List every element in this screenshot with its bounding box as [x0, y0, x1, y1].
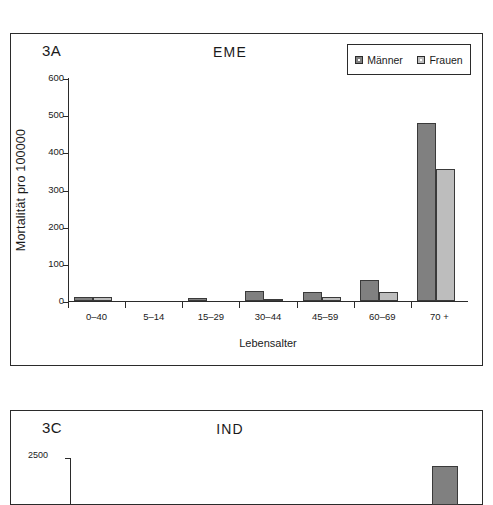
x-tick-mark — [125, 302, 126, 308]
y-tick-label: 500 — [48, 109, 64, 120]
panel-3c-tag: 3C — [42, 419, 62, 436]
legend-entry-maenner: Männer — [355, 54, 403, 66]
x-tick-label: 60–69 — [369, 311, 395, 322]
y-axis-line — [68, 78, 69, 302]
panel-3c-title: IND — [160, 421, 300, 437]
x-tick-mark — [182, 302, 183, 308]
x-tick-label: 0–40 — [86, 311, 107, 322]
x-tick-label: 30–44 — [255, 311, 281, 322]
legend-label-frauen: Frauen — [429, 54, 462, 66]
bar-45–59-frauen — [322, 297, 341, 301]
bar-15–29-maenner — [188, 298, 207, 301]
bar-60–69-frauen — [379, 292, 398, 301]
x-tick-label: 5–14 — [143, 311, 164, 322]
x-tick-label: 45–59 — [312, 311, 338, 322]
x-tick-mark — [411, 302, 412, 308]
x-tick-mark — [297, 302, 298, 308]
y-tick-label: 300 — [48, 184, 64, 195]
panel-3c-bar-maenner — [432, 466, 458, 505]
chart-legend: Männer Frauen — [347, 44, 471, 75]
bar-30–44-maenner — [245, 291, 264, 301]
y-axis-label: Mortalität pro 100000 — [14, 95, 28, 285]
x-tick-mark — [68, 302, 69, 308]
y-tick-label: 200 — [48, 221, 64, 232]
y-tick-label: 0 — [59, 295, 64, 306]
x-tick-mark — [239, 302, 240, 308]
panel-3a-title: EME — [160, 44, 300, 60]
bar-0–40-frauen — [93, 297, 112, 301]
x-tick-label: 15–29 — [198, 311, 224, 322]
bar-30–44-frauen — [264, 299, 283, 301]
panel-3c-y-axis-line — [70, 458, 71, 505]
panel-3c-ytick-label: 2500 — [28, 450, 48, 460]
bar-70-maenner — [417, 123, 436, 301]
x-axis-line — [68, 301, 468, 302]
x-axis-label: Lebensalter — [68, 337, 468, 349]
panel-3a-tag: 3A — [42, 42, 61, 59]
legend-entry-frauen: Frauen — [417, 54, 462, 66]
bar-70-frauen — [436, 169, 455, 301]
plot-area-3a: 0100200300400500600 0–405–1415–2930–4445… — [68, 78, 468, 302]
legend-label-maenner: Männer — [367, 54, 403, 66]
bar-0–40-maenner — [74, 297, 93, 301]
y-tick-label: 600 — [48, 72, 64, 83]
y-tick-label: 100 — [48, 258, 64, 269]
bar-45–59-maenner — [303, 292, 322, 301]
x-tick-label: 70 + — [430, 311, 449, 322]
legend-swatch-maenner — [355, 56, 363, 64]
x-tick-mark — [354, 302, 355, 308]
legend-swatch-frauen — [417, 56, 425, 64]
y-tick-label: 400 — [48, 146, 64, 157]
bar-60–69-maenner — [360, 280, 379, 301]
